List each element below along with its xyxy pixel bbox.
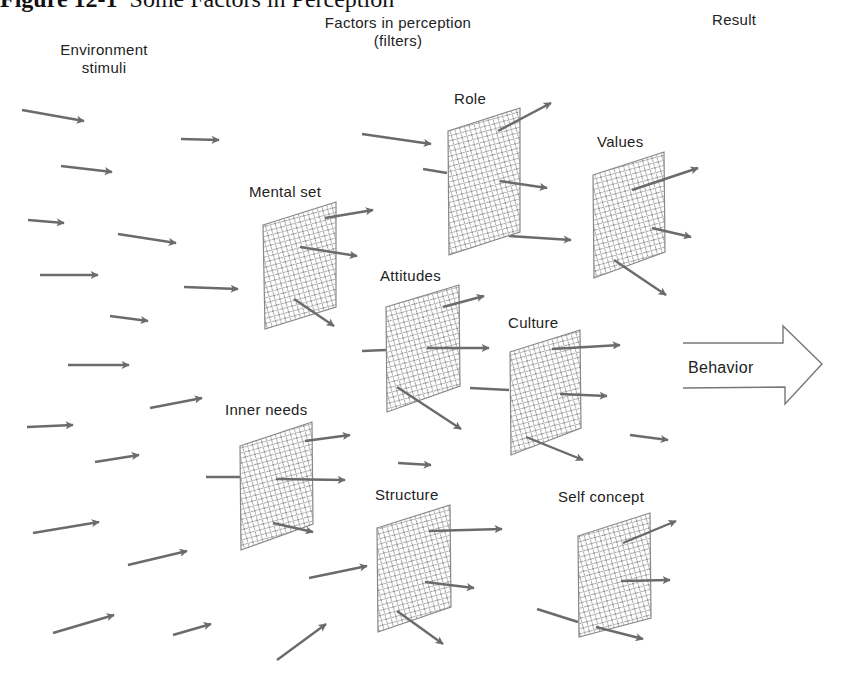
filter-self-concept — [578, 513, 651, 637]
filter-mental-set — [263, 202, 336, 329]
behavior-label: Behavior — [688, 359, 754, 377]
filter-values — [593, 152, 665, 278]
filter-structure — [377, 505, 451, 632]
filter-inner-needs — [240, 422, 313, 550]
perception-diagram — [0, 0, 843, 679]
